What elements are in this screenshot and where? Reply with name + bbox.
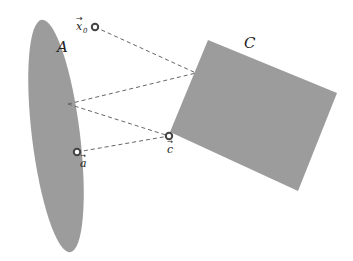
dashed-line-a-point-to-c-point <box>77 136 169 152</box>
svg-text:→: → <box>167 138 173 146</box>
set-c-rectangle <box>170 40 337 191</box>
label-a-set: A <box>55 38 68 56</box>
label-a-point: a → <box>80 152 87 170</box>
diagram-canvas: A C x 0 → a → c → <box>0 0 353 261</box>
label-x0: x 0 → <box>76 14 88 35</box>
label-c-point: c → <box>167 138 173 156</box>
point-x0-marker <box>92 24 98 30</box>
svg-text:0: 0 <box>83 27 88 35</box>
svg-text:→: → <box>76 14 83 23</box>
dashed-line-a-to-c-point <box>68 104 169 136</box>
dashed-line-a-to-c-top <box>68 73 196 104</box>
label-c-set: C <box>244 34 256 52</box>
set-a-ellipse <box>18 17 94 255</box>
dashed-line-x0-to-c <box>95 27 196 73</box>
svg-text:→: → <box>80 152 86 160</box>
